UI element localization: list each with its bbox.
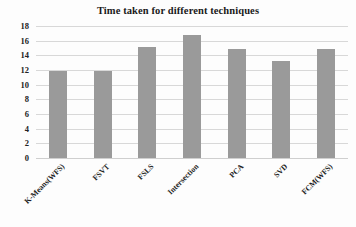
y-axis-tick-label: 6 [25,109,29,119]
bar [228,49,246,158]
x-axis: K-Means(WFS)FSVTFSLSIntersectionPCASVDFC… [36,158,348,224]
bar [94,71,112,158]
y-axis-tick-label: 12 [21,65,30,75]
bars-layer [36,26,348,158]
y-axis-tick-label: 16 [21,36,30,46]
x-axis-tick-label: Intersection [154,162,200,208]
x-axis-tick-label: FSVT [65,162,111,208]
bar-chart: Time taken for different techniques 1816… [0,0,356,227]
x-axis-tick-label: PCA [199,162,245,208]
y-axis-tick-label: 2 [25,138,29,148]
y-axis: 181614121086420 [0,26,34,158]
y-axis-tick-label: 8 [25,94,29,104]
x-axis-tick-label: FSLS [110,162,156,208]
x-axis-tick-label: SVD [244,162,290,208]
bar [183,35,201,158]
y-axis-tick-label: 4 [25,124,29,134]
y-axis-tick-label: 10 [21,80,30,90]
x-axis-tick-label: FCM(WFS) [288,162,334,208]
bar [49,71,67,158]
bar [317,49,335,158]
y-axis-tick-label: 14 [21,50,30,60]
y-axis-tick-label: 0 [25,153,29,163]
x-axis-tick-label: K-Means(WFS) [21,162,67,208]
bar [138,47,156,158]
chart-title: Time taken for different techniques [0,5,356,16]
bar [272,61,290,158]
y-axis-tick-label: 18 [21,21,30,31]
